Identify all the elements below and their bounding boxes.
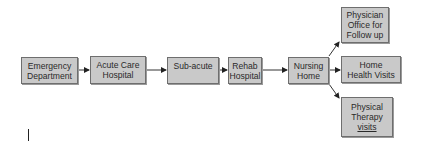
node-home-health-visits: Home Health Visits [341,56,401,83]
flowchart-canvas: Emergency Department Acute Care Hospital… [0,0,422,149]
node-acute-care-hospital: Acute Care Hospital [90,56,146,84]
node-label: Rehab Hospital [229,61,260,81]
node-label: Emergency Department [27,61,72,81]
node-emergency-department: Emergency Department [21,57,78,84]
arrow-nursing-to-physician [329,42,339,56]
node-physical-therapy-visits: Physical Therapy visits [341,97,393,137]
node-rehab-hospital: Rehab Hospital [228,57,262,84]
node-label-underlined: visits [357,122,376,132]
node-label: Nursing Home [294,61,324,81]
node-label: Sub-acute [173,61,212,71]
node-label: Home Health Visits [347,60,395,80]
arrow-nursing-to-therapy [329,84,339,98]
node-label: Physician Office for Follow up [347,10,384,40]
text-cursor [28,129,29,141]
node-label: Physical Therapy [351,102,383,122]
node-physician-office: Physician Office for Follow up [341,7,389,43]
node-label: Acute Care Hospital [97,60,140,80]
node-nursing-home: Nursing Home [288,57,329,84]
node-sub-acute: Sub-acute [167,57,219,84]
